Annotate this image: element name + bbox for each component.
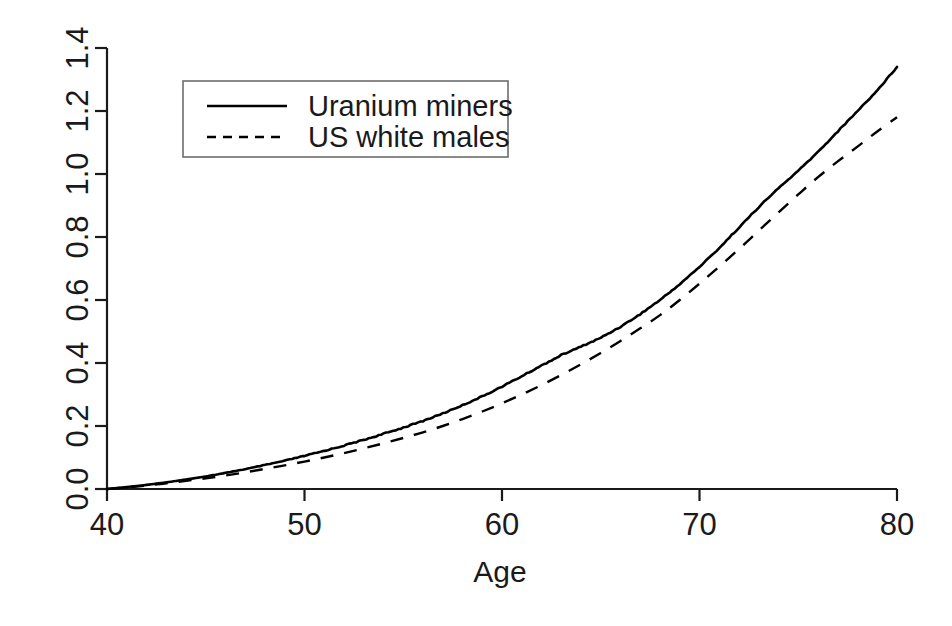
- x-tick-label: 80: [880, 507, 914, 542]
- y-tick-label: 0.0: [60, 467, 95, 510]
- x-tick-label: 70: [682, 507, 716, 542]
- y-axis-ticks: [95, 48, 107, 489]
- y-tick-label: 0.8: [60, 215, 95, 258]
- x-axis-title: Age: [473, 555, 526, 588]
- x-axis-tick-labels: 4050607080: [90, 507, 914, 542]
- series-us-white-males: [107, 117, 897, 489]
- legend-label-uranium-miners: Uranium miners: [308, 90, 513, 122]
- x-axis: 4050607080: [90, 489, 914, 542]
- x-tick-label: 40: [90, 507, 124, 542]
- chart-legend: Uranium miners US white males: [183, 81, 513, 157]
- y-tick-label: 0.2: [60, 404, 95, 447]
- x-tick-label: 50: [287, 507, 321, 542]
- x-axis-ticks: [107, 489, 897, 501]
- y-axis-tick-labels: 0.00.20.40.60.81.01.21.4: [60, 26, 95, 510]
- y-axis: 0.00.20.40.60.81.01.21.4: [60, 26, 107, 510]
- y-tick-label: 0.4: [60, 341, 95, 384]
- legend-label-us-white-males: US white males: [308, 121, 509, 153]
- y-tick-label: 1.4: [60, 26, 95, 69]
- x-tick-label: 60: [485, 507, 519, 542]
- chart-plot: 0.00.20.40.60.81.01.21.4 4050607080 Uran…: [0, 0, 952, 626]
- y-tick-label: 1.0: [60, 152, 95, 195]
- y-tick-label: 1.2: [60, 89, 95, 132]
- chart-container: 0.00.20.40.60.81.01.21.4 4050607080 Uran…: [0, 0, 952, 626]
- y-tick-label: 0.6: [60, 278, 95, 321]
